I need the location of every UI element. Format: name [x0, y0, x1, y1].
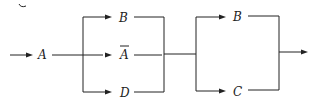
arrow-icon — [105, 15, 112, 20]
node-B2: B — [232, 10, 242, 24]
block-diagram: A B A D B C — [0, 0, 312, 103]
node-A: A — [37, 48, 47, 62]
arrow-icon — [301, 50, 308, 55]
arrow-icon — [219, 89, 226, 94]
node-D: D — [119, 86, 130, 100]
arrow-icon — [105, 90, 112, 95]
handwriting-mark — [19, 4, 26, 7]
node-B1: B — [118, 11, 128, 25]
arrow-icon — [26, 53, 33, 58]
arrow-icon — [219, 15, 226, 20]
node-C: C — [233, 85, 242, 99]
arrow-icon — [105, 53, 112, 58]
node-A-bar: A — [119, 48, 129, 62]
